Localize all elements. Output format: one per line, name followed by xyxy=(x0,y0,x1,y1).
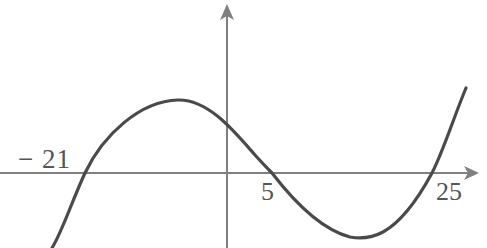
x-root-label-5: 5 xyxy=(261,179,274,205)
cubic-curve xyxy=(52,88,466,248)
x-root-label-25: 25 xyxy=(436,179,462,205)
cubic-function-graph: − 21 5 25 xyxy=(0,0,487,248)
plot-canvas xyxy=(0,0,487,248)
x-root-label-minus-21: − 21 xyxy=(18,146,71,173)
